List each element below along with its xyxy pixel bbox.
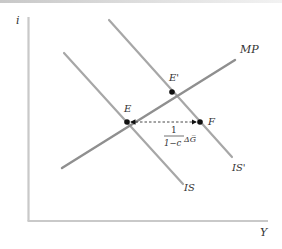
point-e-prime: [169, 89, 175, 95]
mp-curve: [62, 60, 235, 168]
is-curve: [64, 53, 183, 184]
multiplier-label: 1 1−c ΔG̅: [164, 125, 197, 148]
is-label: IS: [183, 182, 195, 193]
mp-label: MP: [239, 43, 259, 56]
multiplier-denominator: 1−c: [164, 138, 182, 148]
axes: [28, 17, 269, 221]
point-e-label: E: [123, 103, 132, 114]
point-f: [197, 119, 203, 125]
multiplier-numerator: 1: [171, 125, 177, 135]
is-prime-label: IS': [231, 162, 246, 173]
point-e: [124, 119, 130, 125]
is-mp-diagram: i Y MP IS' IS E E' F 1 1−c ΔG̅: [0, 0, 282, 249]
y-axis-label: i: [16, 14, 20, 27]
change-term: ΔG̅: [183, 135, 197, 144]
x-axis-label: Y: [260, 226, 269, 239]
point-f-label: F: [207, 116, 216, 127]
is-prime-curve: [109, 20, 232, 157]
point-e-prime-label: E': [168, 72, 179, 83]
